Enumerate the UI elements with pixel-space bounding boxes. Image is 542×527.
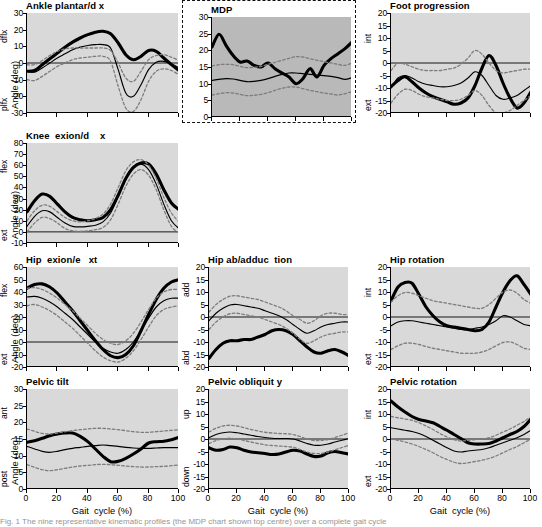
xtick-mark (390, 113, 391, 117)
ytick-mark (387, 464, 391, 465)
ytick-mark (23, 199, 27, 200)
xtick-mark (56, 367, 57, 371)
xtick-mark (56, 489, 57, 493)
ytick-mark (387, 63, 391, 64)
direction-label-bottom-pelvic_rotation: ext (363, 476, 373, 487)
xtick-label: 40 (441, 493, 451, 503)
ytick-label: 25 (186, 29, 208, 39)
ytick-mark (387, 51, 391, 52)
direction-label-top-knee: flex (0, 160, 9, 173)
xtick-mark (26, 489, 27, 493)
xtick-label: 80 (143, 493, 153, 503)
xtick-label: 80 (315, 493, 325, 503)
series-normative-1sd (391, 50, 530, 73)
ytick-label: -10 (183, 337, 205, 347)
panel-pelvic_obliquity: Pelvic obliquit y-20-15-10-5051015200204… (182, 376, 356, 521)
ytick-label: 30 (1, 384, 23, 394)
ytick-label: -10 (365, 83, 387, 93)
ytick-mark (23, 439, 27, 440)
xtick-label: 20 (413, 493, 423, 503)
ytick-mark (23, 317, 27, 318)
xtick-mark (348, 489, 349, 493)
direction-label-top-pelvic_rotation: int (363, 410, 373, 419)
ytick-mark (387, 26, 391, 27)
ytick-mark (205, 317, 209, 318)
xtick-mark (474, 113, 475, 117)
ytick-mark (387, 355, 391, 356)
ytick-mark (387, 101, 391, 102)
panel-title-pelvic_rotation: Pelvic rotation (390, 376, 457, 387)
ytick-label: 30 (1, 8, 23, 18)
ytick-label: 20 (186, 45, 208, 55)
ytick-label: 0 (365, 312, 387, 322)
ytick-label: -5 (365, 71, 387, 81)
ytick-mark (23, 63, 27, 64)
xtick-mark (148, 367, 149, 371)
series-normative-1sd (27, 428, 178, 434)
ytick-mark (23, 422, 27, 423)
xtick-mark (295, 117, 296, 121)
xtick-mark (178, 367, 179, 371)
xtick-mark (264, 489, 265, 493)
ytick-mark (387, 389, 391, 390)
ytick-label: 5 (183, 300, 205, 310)
ytick-label: 0 (186, 112, 208, 122)
plot-area-pelvic_obliquity (208, 389, 348, 489)
curves-foot_progression (391, 13, 530, 113)
ytick-mark (23, 165, 27, 166)
ytick-mark (387, 330, 391, 331)
ytick-mark (23, 305, 27, 306)
ytick-mark (23, 292, 27, 293)
ytick-label: -5 (183, 447, 205, 457)
series-normative-mean (27, 445, 178, 452)
xtick-mark (178, 113, 179, 117)
ytick-mark (208, 34, 212, 35)
xtick-mark (390, 489, 391, 493)
xtick-mark (267, 117, 268, 121)
ytick-mark (23, 46, 27, 47)
xtick-mark (446, 489, 447, 493)
series-normative-1sd (27, 304, 178, 362)
ytick-mark (208, 50, 212, 51)
ytick-label: 20 (365, 262, 387, 272)
xtick-label: 0 (388, 493, 393, 503)
direction-label-top-hip_flexion: flex (0, 284, 9, 297)
ytick-label: -10 (365, 337, 387, 347)
xtick-mark (148, 243, 149, 247)
ytick-label: 20 (183, 262, 205, 272)
xtick-mark (530, 367, 531, 371)
ytick-mark (387, 88, 391, 89)
plot-area-pelvic_tilt (26, 389, 178, 489)
ytick-mark (23, 267, 27, 268)
xtick-mark (351, 117, 352, 121)
yaxis-label-knee: Angle (deg) (10, 191, 20, 239)
ytick-mark (387, 477, 391, 478)
xtick-mark (390, 367, 391, 371)
ytick-mark (205, 477, 209, 478)
xtick-label: 100 (523, 493, 537, 503)
ytick-mark (23, 472, 27, 473)
ytick-mark (205, 427, 209, 428)
ytick-mark (387, 402, 391, 403)
ytick-label: 5 (365, 46, 387, 56)
xtick-mark (56, 243, 57, 247)
panel-title-hip_abadduction: Hip ab/adduc tion (208, 254, 292, 265)
xtick-mark (264, 367, 265, 371)
ytick-mark (205, 280, 209, 281)
series-patient (391, 276, 530, 331)
ytick-label: 20 (365, 8, 387, 18)
figure-caption: Fig. 1 The nine representative kinematic… (0, 516, 542, 527)
ytick-mark (387, 280, 391, 281)
ytick-mark (23, 154, 27, 155)
ytick-mark (205, 452, 209, 453)
ytick-mark (23, 30, 27, 31)
direction-label-bottom-knee: ext (0, 230, 9, 241)
ytick-mark (387, 414, 391, 415)
panel-title-hip_flexion: Hip exion/e xt (26, 254, 97, 265)
ytick-mark (387, 292, 391, 293)
ytick-mark (23, 210, 27, 211)
ytick-label: 10 (186, 79, 208, 89)
xaxis-label-pelvic_tilt: Gait cycle (%) (72, 506, 132, 516)
ytick-label: 60 (1, 262, 23, 272)
xtick-mark (474, 489, 475, 493)
